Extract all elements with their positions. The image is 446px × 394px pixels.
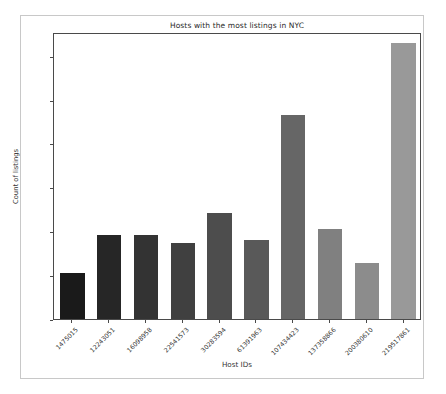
x-tick-mark [292,320,293,323]
bar [281,115,305,319]
bar [355,263,379,319]
x-axis-ticks: 1475015122430511609895822541573302835946… [0,320,446,394]
bar [207,213,231,319]
bar [391,43,415,319]
figure-canvas: Hosts with the most listings in NYC 0501… [0,0,446,394]
bar [134,235,158,319]
x-tick-mark [219,320,220,323]
bar [171,243,195,319]
plot-area [53,33,421,320]
chart-title: Hosts with the most listings in NYC [53,19,421,32]
bar [318,229,342,319]
x-tick-mark [108,320,109,323]
bar [244,240,268,319]
x-tick-mark [255,320,256,323]
x-tick-mark [329,320,330,323]
bar [60,273,84,319]
x-tick-mark [403,320,404,323]
x-tick-mark [182,320,183,323]
x-tick-mark [145,320,146,323]
x-tick-mark [366,320,367,323]
bar [97,235,121,319]
bars-layer [54,34,420,319]
x-axis-label: Host IDs [53,360,421,370]
x-tick-mark [71,320,72,323]
y-axis-label: Count of listings [10,33,22,320]
